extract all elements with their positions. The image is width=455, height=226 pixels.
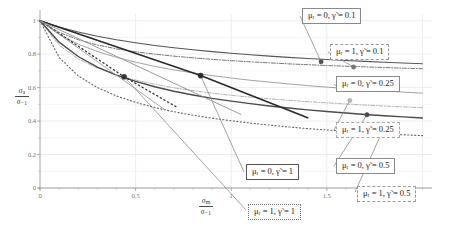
x-tick-label: 1.5 xyxy=(320,192,334,199)
curve--r-1-1 xyxy=(40,21,178,108)
y-tick-label: 1 xyxy=(16,17,36,24)
marker-point xyxy=(365,113,369,117)
marker-point xyxy=(348,98,352,102)
x-axis-num-subscript: m xyxy=(205,198,210,205)
legend-mu1-g025[interactable]: μᵣ = 1, γ̃ = 0.25 xyxy=(336,122,400,138)
y-tick-label: 0.2 xyxy=(16,151,36,158)
x-axis-label: σm σ−1 xyxy=(192,196,220,217)
y-axis-label: σa σ−1 xyxy=(8,86,36,107)
x-axis-den-subscript: −1 xyxy=(205,209,212,216)
x-tick-label: 1 xyxy=(224,192,238,199)
leader-mu1-g1 xyxy=(124,77,246,210)
marker-point xyxy=(198,73,203,78)
legend-mu1-g1[interactable]: μᵣ = 1, γ̃ = 1 xyxy=(248,204,301,220)
marker-point xyxy=(122,74,127,79)
curve-aux-line-b xyxy=(40,21,164,110)
y-tick-label: 0 xyxy=(16,184,36,191)
legend-mu1-g01[interactable]: μᵣ = 1, γ̃ = 0.1 xyxy=(330,44,389,60)
haigh-diagram-figure: 00.511.510.80.60.40.20 σa σ−1 σm σ−1 μᵣ … xyxy=(0,0,455,226)
marker-point xyxy=(319,59,323,63)
legend-mu1-g05[interactable]: μᵣ = 1, γ̃ = 0.5 xyxy=(357,186,416,202)
y-tick-label: 0.4 xyxy=(16,117,36,124)
legend-mu0-g1[interactable]: μᵣ = 0, γ̃ = 1 xyxy=(246,164,299,180)
legend-mu0-g025[interactable]: μᵣ = 0, γ̃ = 0.25 xyxy=(336,76,400,92)
x-tick-label: 0.5 xyxy=(129,192,143,199)
y-axis-den-subscript: −1 xyxy=(21,99,28,106)
legend-mu0-g01[interactable]: μᵣ = 0, γ̃ = 0.1 xyxy=(302,8,361,24)
y-axis-num-subscript: a xyxy=(22,88,25,95)
marker-point xyxy=(351,65,355,69)
x-tick-label: 0 xyxy=(33,192,47,199)
y-tick-label: 0.8 xyxy=(16,50,36,57)
legend-mu0-g05[interactable]: μᵣ = 0, γ̃ = 0.5 xyxy=(336,158,395,174)
curve--r-0-1 xyxy=(40,21,308,118)
